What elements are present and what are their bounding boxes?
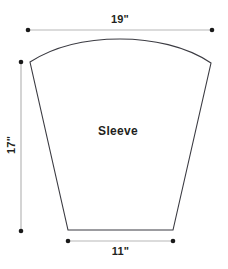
left-dimension-label: 17": [5, 138, 17, 154]
bottom-dimension-label: 11": [0, 245, 228, 257]
bottom-dimension-line: [66, 239, 176, 244]
top-dimension-label: 19": [0, 13, 228, 25]
top-dimension-end-dot: [210, 28, 215, 33]
left-dimension-end-dot: [19, 229, 24, 234]
left-dimension-start-dot: [19, 60, 24, 65]
sleeve-piece-label: Sleeve: [0, 124, 228, 138]
top-dimension-start-dot: [26, 28, 31, 33]
top-dimension-line: [26, 28, 215, 33]
sleeve-pattern-diagram: 19" 17" 11" Sleeve: [0, 0, 228, 269]
bottom-dimension-start-dot: [66, 239, 71, 244]
bottom-dimension-end-dot: [171, 239, 176, 244]
left-dimension-line: [19, 60, 24, 234]
